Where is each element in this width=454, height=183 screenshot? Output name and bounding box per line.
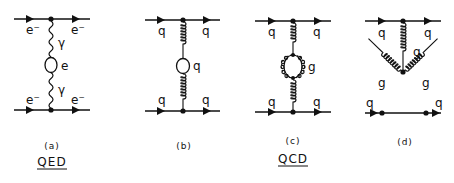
label-bottom-in: q <box>268 95 276 109</box>
label-bottom-in: e⁻ <box>26 93 40 107</box>
qed-label: QED <box>37 155 66 169</box>
gluon-loop <box>281 55 305 78</box>
label-top-out: e⁻ <box>71 23 85 37</box>
quark-loop <box>177 59 190 74</box>
label-bottom-out: e⁻ <box>71 93 85 107</box>
label-loop: q <box>193 59 201 73</box>
label-loop: g <box>308 60 316 74</box>
vertex <box>423 110 428 115</box>
caption-b: (b) <box>176 141 192 151</box>
label-bottom-out: q <box>313 95 321 109</box>
vertex <box>180 108 185 113</box>
feynman-diagrams-figure: e⁻ e⁻ γ e γ e⁻ e⁻ (a) q q q q q (b) <box>0 0 454 183</box>
diagram-c: q q g q q (c) <box>255 17 331 146</box>
label-top-out: q <box>202 24 210 38</box>
label-right-gluon: g <box>422 76 430 90</box>
upper-gluon-propagator <box>291 23 296 55</box>
label-lower-photon: γ <box>58 83 65 97</box>
vertex <box>290 109 295 114</box>
vertical-gluon-propagator <box>401 23 406 72</box>
theory-label-qcd: QCD <box>278 152 308 166</box>
label-bottom-out: q <box>202 93 210 107</box>
bottom-quark-line <box>365 109 441 117</box>
lower-photon-propagator <box>49 73 53 109</box>
diagram-a: e⁻ e⁻ γ e γ e⁻ e⁻ (a) <box>14 15 90 151</box>
label-top-in: q <box>268 25 276 39</box>
label-loop: e <box>61 59 68 73</box>
label-top-out: q <box>424 26 432 40</box>
vertex <box>379 110 384 115</box>
vertex <box>48 16 53 21</box>
caption-d: (d) <box>397 137 413 147</box>
label-top-out: q <box>313 25 321 39</box>
diagram-d: q q g g g q q (d) <box>365 17 443 147</box>
label-bottom-out: q <box>435 96 443 110</box>
lower-gluon-propagator <box>181 74 186 109</box>
upper-photon-propagator <box>49 21 53 57</box>
left-gluon-propagator <box>366 37 404 74</box>
lower-gluon-propagator <box>291 80 296 110</box>
caption-a: (a) <box>44 141 60 151</box>
label-left-gluon: g <box>378 76 386 90</box>
label-top-in: e⁻ <box>26 23 40 37</box>
label-vertical-gluon: g <box>413 45 421 59</box>
theory-label-qed: QED <box>37 155 67 169</box>
diagram-b: q q q q q (b) <box>145 16 220 151</box>
electron-loop <box>45 58 57 73</box>
upper-gluon-propagator <box>181 22 186 58</box>
label-bottom-in: q <box>158 93 166 107</box>
label-top-in: q <box>378 26 386 40</box>
caption-c: (c) <box>286 136 301 146</box>
qcd-label: QCD <box>278 152 308 166</box>
label-upper-photon: γ <box>58 36 65 50</box>
label-bottom-in: q <box>366 96 374 110</box>
label-top-in: q <box>158 24 166 38</box>
